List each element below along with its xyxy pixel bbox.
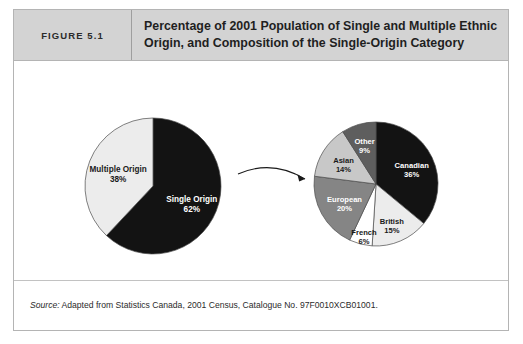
pie-slice-value-canadian: 36% [404,170,419,179]
figure-source-note: Source: Adapted from Statistics Canada, … [30,300,378,311]
pie-slice-value-asian: 14% [336,165,351,174]
pie-slice-label-single-origin: Single Origin [166,195,217,204]
pie-slice-value-single-origin: 62% [184,205,201,214]
pie-slice-label-french: French [351,228,377,237]
figure-source-row: Source: Adapted from Statistics Canada, … [14,280,508,330]
figure-number-cell: FIGURE 5.1 [14,10,132,60]
pie-slice-value-british: 15% [384,226,399,235]
pie-slice-value-other: 9% [359,146,370,155]
pie-slice-label-canadian: Canadian [395,161,430,170]
figure-title-cell: Percentage of 2001 Population of Single … [132,10,508,60]
figure-plot-area: Single Origin62%Multiple Origin38% Canad… [14,61,508,280]
figure-title: Percentage of 2001 Population of Single … [144,18,498,51]
pie-slice-value-european: 20% [337,204,352,213]
pie-slice-label-european: European [327,195,362,204]
figure-container: FIGURE 5.1 Percentage of 2001 Population… [13,9,509,331]
pie-slice-label-multiple-origin: Multiple Origin [90,165,147,174]
pie-slice-label-other: Other [354,137,374,146]
pie-charts-svg: Single Origin62%Multiple Origin38% Canad… [14,61,508,280]
expansion-arrow [238,168,305,182]
figure-header: FIGURE 5.1 Percentage of 2001 Population… [14,10,508,61]
pie-slice-value-french: 6% [359,237,370,246]
pie-slice-label-british: British [380,217,404,226]
source-label: Source: [30,300,60,310]
source-text: Adapted from Statistics Canada, 2001 Cen… [60,300,378,310]
origin-split-pie [85,118,221,254]
pie-slice-label-asian: Asian [333,156,354,165]
figure-number-label: FIGURE 5.1 [41,30,104,41]
pie-slice-value-multiple-origin: 38% [110,175,127,184]
